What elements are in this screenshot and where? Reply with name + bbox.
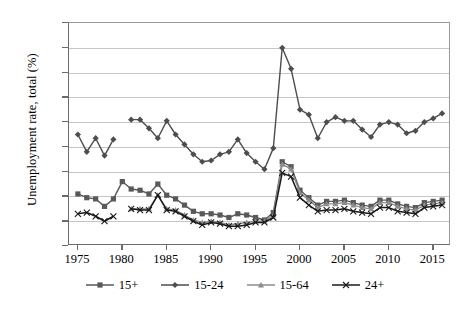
data-point-diamond <box>341 118 347 124</box>
data-point-diamond <box>128 117 134 123</box>
data-point-square <box>129 186 134 191</box>
legend-marker-cross-icon <box>331 279 361 291</box>
legend-label: 15+ <box>119 279 139 292</box>
data-point-square <box>226 215 231 220</box>
x-tick-mark <box>299 245 300 250</box>
data-point-diamond <box>386 119 392 125</box>
data-point-diamond <box>430 115 436 121</box>
data-point-square <box>155 181 160 186</box>
series-15-64 <box>128 161 445 227</box>
series-line <box>131 164 442 225</box>
data-point-square <box>200 211 205 216</box>
x-tick-mark <box>77 245 78 250</box>
data-point-square <box>217 212 222 217</box>
legend-marker-diamond-icon <box>160 279 190 291</box>
data-point-diamond <box>75 131 81 137</box>
legend-label: 24+ <box>365 279 385 292</box>
data-point-square <box>191 209 196 214</box>
data-point-diamond <box>324 119 330 125</box>
data-point-diamond <box>172 282 178 288</box>
x-tick-mark <box>121 245 122 250</box>
data-point-diamond <box>101 152 107 158</box>
data-point-square <box>164 193 169 198</box>
x-tick-mark <box>166 245 167 250</box>
data-point-square <box>120 179 125 184</box>
x-tick-label: 2015 <box>402 252 462 267</box>
plot-area <box>68 22 450 245</box>
series-line <box>131 48 442 169</box>
data-point-square <box>102 204 107 209</box>
data-point-square <box>173 196 178 201</box>
x-tick-mark <box>388 245 389 250</box>
legend-marker-square-icon <box>85 279 115 291</box>
legend-item-15plus[interactable]: 15+ <box>85 279 139 292</box>
data-point-diamond <box>279 45 285 51</box>
data-point-square <box>93 196 98 201</box>
data-point-square <box>75 191 80 196</box>
x-tick-mark <box>432 245 433 250</box>
data-point-diamond <box>306 112 312 118</box>
data-point-cross <box>110 213 116 219</box>
series-15-24 <box>75 45 445 173</box>
legend-label: 15-24 <box>194 279 223 292</box>
data-point-square <box>137 188 142 193</box>
data-point-square <box>146 191 151 196</box>
legend-label: 15-64 <box>280 279 309 292</box>
legend-item-24plus[interactable]: 24+ <box>331 279 385 292</box>
data-point-diamond <box>270 145 276 151</box>
data-point-square <box>182 203 187 208</box>
data-point-cross <box>306 202 312 208</box>
y-axis-title: Unemployment rate, total (%) <box>25 10 40 250</box>
series-15plus <box>75 159 444 222</box>
data-point-diamond <box>332 114 338 120</box>
data-point-diamond <box>288 66 294 72</box>
data-point-cross <box>102 218 108 224</box>
data-point-square <box>97 283 102 288</box>
data-point-square <box>244 212 249 217</box>
data-point-cross <box>93 213 99 219</box>
data-point-diamond <box>315 135 321 141</box>
data-point-square <box>111 196 116 201</box>
x-tick-mark <box>210 245 211 250</box>
legend-item-15-64[interactable]: 15-64 <box>246 279 309 292</box>
y-tick-mark <box>62 245 68 246</box>
data-point-diamond <box>297 107 303 113</box>
legend-item-15-24[interactable]: 15-24 <box>160 279 223 292</box>
legend-marker-triangle-icon <box>246 279 276 291</box>
x-tick-mark <box>255 245 256 250</box>
data-point-square <box>235 211 240 216</box>
data-point-square <box>209 211 214 216</box>
legend: 15+15-2415-6424+ <box>0 279 469 292</box>
data-point-diamond <box>439 110 445 116</box>
x-tick-mark <box>343 245 344 250</box>
data-point-square <box>84 195 89 200</box>
series-layer <box>69 23 451 246</box>
data-point-cross <box>297 195 303 201</box>
unemployment-rate-line-chart: Unemployment rate, total (%) 02468101214… <box>0 0 469 311</box>
data-point-diamond <box>110 136 116 142</box>
